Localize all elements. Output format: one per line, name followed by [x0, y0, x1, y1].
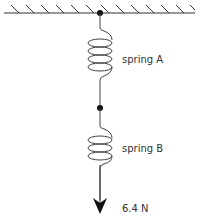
force-arrow [93, 165, 107, 214]
force-label: 6.4 N [122, 203, 149, 214]
spring-a [88, 13, 112, 108]
spring-system-diagram: spring A spring B 6.4 N [0, 0, 200, 223]
spring-b-label: spring B [122, 143, 163, 154]
spring-a-label: spring A [122, 54, 163, 65]
